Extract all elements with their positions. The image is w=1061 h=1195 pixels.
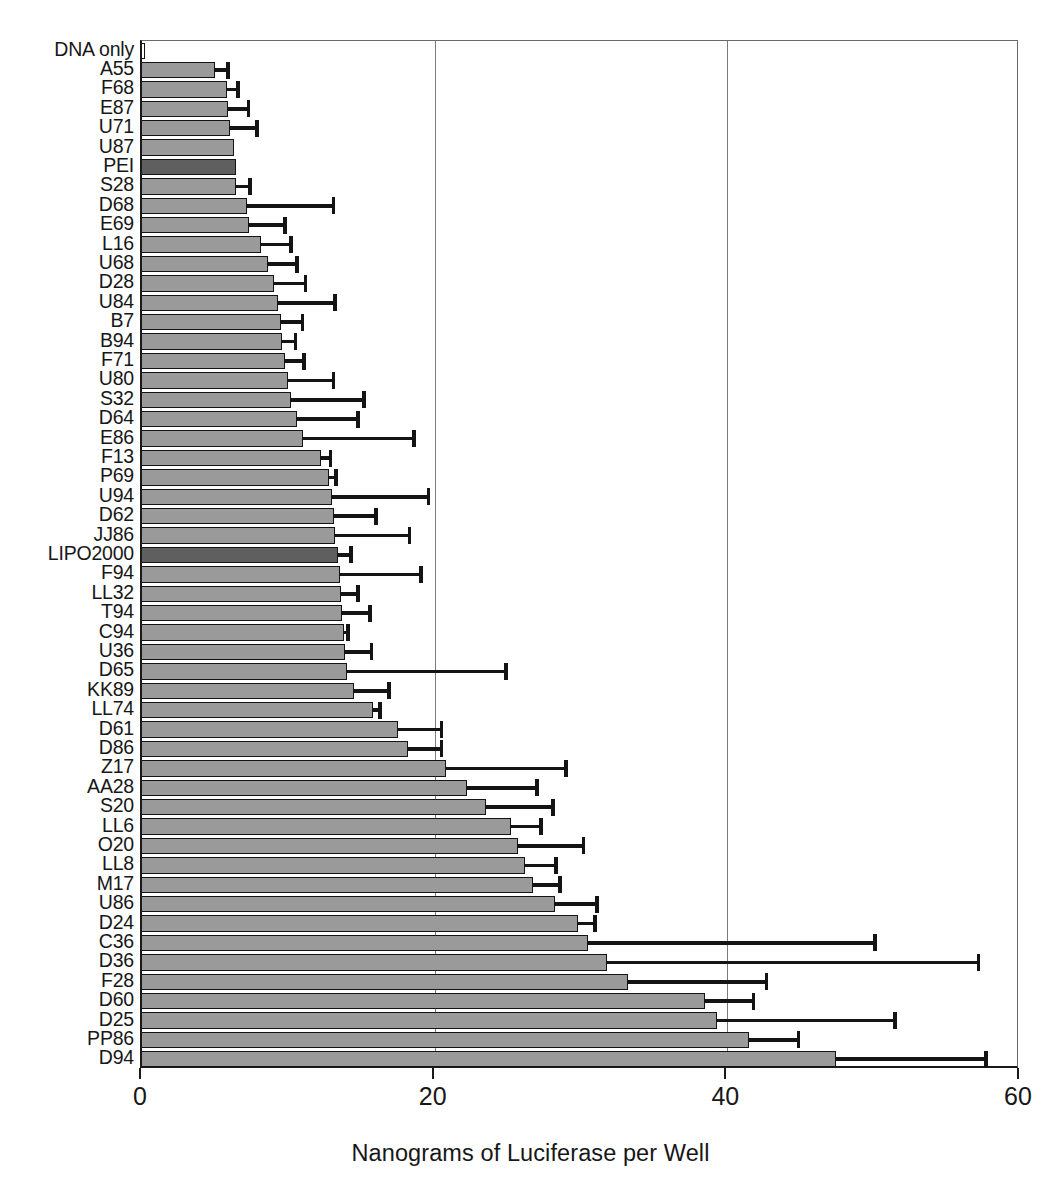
error-bar-cap [295, 256, 299, 273]
bar-rows [142, 41, 1017, 1066]
error-bar-line [467, 786, 539, 790]
bar-row [142, 836, 1017, 855]
error-bar-line [588, 941, 876, 945]
error-bar-cap [302, 353, 306, 370]
bar-row [142, 720, 1017, 739]
bar-c94 [142, 624, 344, 640]
error-bar-cap [283, 217, 287, 234]
bar-row [142, 80, 1017, 99]
bar-row [142, 99, 1017, 118]
error-bar-cap [558, 876, 562, 893]
y-label-u84: U84 [99, 292, 134, 311]
bar-f71 [142, 353, 285, 369]
bar-row [142, 332, 1017, 351]
y-label-d36: D36 [99, 951, 134, 970]
error-bar-line [717, 1019, 897, 1023]
bar-row [142, 60, 1017, 79]
error-bar-cap [329, 450, 333, 467]
bar-row [142, 972, 1017, 991]
y-label-u94: U94 [99, 486, 134, 505]
y-label-d65: D65 [99, 660, 134, 679]
bar-d24 [142, 915, 578, 931]
bar-f68 [142, 81, 227, 97]
bar-row [142, 856, 1017, 875]
error-bar-line [518, 844, 585, 848]
bar-s20 [142, 799, 486, 815]
bar-row [142, 429, 1017, 448]
error-bar-line [297, 417, 360, 421]
bar-row [142, 914, 1017, 933]
error-bar-cap [368, 605, 372, 622]
y-label-kk89: KK89 [87, 680, 134, 699]
bar-row [142, 157, 1017, 176]
error-bar-cap [378, 702, 382, 719]
bar-row [142, 138, 1017, 157]
bar-row [142, 313, 1017, 332]
y-label-pp86: PP86 [87, 1029, 134, 1048]
error-bar-cap [504, 663, 508, 680]
y-label-ll74: LL74 [91, 699, 134, 718]
y-label-t94: T94 [101, 602, 134, 621]
bar-d86 [142, 741, 408, 757]
bar-row [142, 565, 1017, 584]
bar-row [142, 390, 1017, 409]
error-bar-line [525, 864, 557, 868]
bar-row [142, 545, 1017, 564]
bar-row [142, 1011, 1017, 1030]
bar-pei [142, 159, 236, 175]
bar-row [142, 351, 1017, 370]
bar-f13 [142, 450, 321, 466]
error-bar-line [288, 379, 335, 383]
error-bar-cap [304, 275, 308, 292]
bar-l16 [142, 236, 261, 252]
y-label-s20: S20 [100, 796, 134, 815]
error-bar-cap [301, 314, 305, 331]
bar-row [142, 196, 1017, 215]
x-tick-label-0: 0 [133, 1082, 147, 1110]
y-label-e87: E87 [100, 98, 134, 117]
error-bar-line [332, 495, 430, 499]
y-label-p69: P69 [100, 466, 134, 485]
y-label-b7: B7 [111, 311, 134, 330]
bar-p69 [142, 469, 329, 485]
y-label-u86: U86 [99, 893, 134, 912]
error-bar-cap [255, 120, 259, 137]
y-label-d61: D61 [99, 719, 134, 738]
bar-jj86 [142, 527, 335, 543]
error-bar-cap [564, 760, 568, 777]
error-bar-cap [294, 333, 298, 350]
y-label-d60: D60 [99, 990, 134, 1009]
bar-s32 [142, 392, 291, 408]
bar-aa28 [142, 780, 467, 796]
x-tick-label-60: 60 [1004, 1082, 1032, 1110]
error-bar-line [555, 902, 599, 906]
bar-ll74 [142, 702, 373, 718]
bar-d25 [142, 1012, 717, 1028]
y-label-f28: F28 [101, 971, 134, 990]
bar-u87 [142, 139, 234, 155]
error-bar-line [340, 573, 423, 577]
error-bar-cap [752, 993, 756, 1010]
x-tick-20 [432, 1068, 434, 1079]
y-label-d64: D64 [99, 408, 134, 427]
bar-b7 [142, 314, 281, 330]
y-label-s28: S28 [100, 175, 134, 194]
bar-ll6 [142, 818, 511, 834]
error-bar-cap [593, 915, 597, 932]
error-bar-line [486, 805, 555, 809]
bar-row [142, 681, 1017, 700]
bar-ll32 [142, 586, 341, 602]
bar-e86 [142, 430, 303, 446]
y-label-pei: PEI [103, 156, 134, 175]
bar-b94 [142, 333, 282, 349]
y-label-a55: A55 [100, 59, 134, 78]
error-bar-cap [370, 643, 374, 660]
error-bar-line [354, 689, 391, 693]
bar-row [142, 1050, 1017, 1069]
bar-d62 [142, 508, 334, 524]
luciferase-bar-chart: DNA onlyA55F68E87U71U87PEIS28D68E69L16U6… [0, 0, 1061, 1195]
y-label-m17: M17 [97, 874, 134, 893]
error-bar-cap [349, 546, 353, 563]
error-bar-cap [332, 197, 336, 214]
y-label-f68: F68 [101, 78, 134, 97]
